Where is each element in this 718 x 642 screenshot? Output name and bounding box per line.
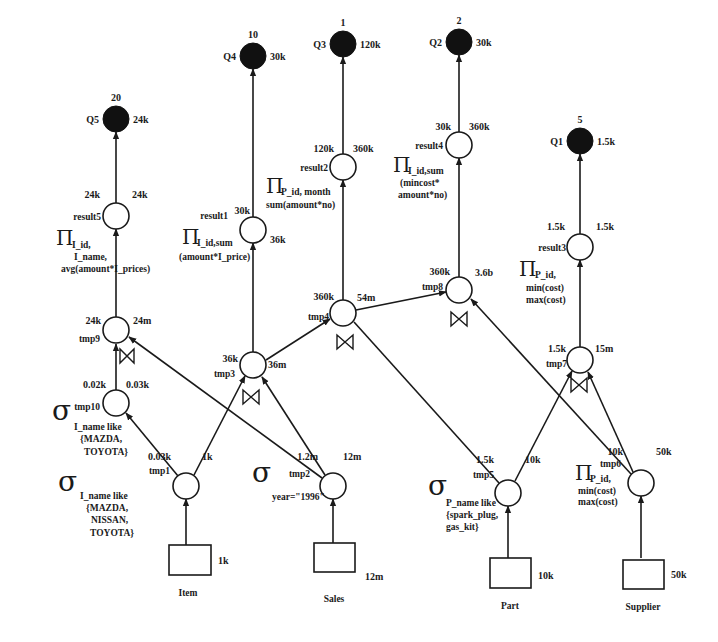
node-right-size: 3.6b — [475, 267, 494, 278]
relation-box — [169, 545, 211, 575]
relation-item: 1k Item — [169, 545, 229, 598]
query-size: 24k — [133, 114, 149, 125]
node-name: tmp7 — [546, 359, 567, 369]
op-line: amount*no) — [398, 190, 447, 201]
op-subscript: I_id, — [72, 240, 91, 250]
node-left-size: 1.5k — [548, 343, 567, 354]
op-subscript: P_id, month — [281, 187, 331, 197]
query-q5: 20 Q5 24k — [86, 92, 149, 132]
op-line: I_name like — [80, 491, 128, 501]
relation-name: Part — [501, 601, 520, 611]
node-left-size: 30k — [234, 205, 250, 216]
node-tmp1: 0.03k 1k tmp1 σ I_name like {MAZDA, NISS… — [58, 451, 213, 538]
node-tmp4: 360k 54m tmp4 — [308, 291, 376, 349]
node-tmp10: 0.02k 0.03k tmp10 σ I_name like {MAZDA, … — [52, 379, 150, 457]
join-icon — [337, 335, 353, 349]
op-line: min(cost) — [526, 283, 564, 294]
op-subscript: P_id, — [535, 270, 556, 280]
node-left-size: 1.2m — [297, 451, 319, 462]
query-label: Q2 — [429, 37, 442, 48]
node-right-size: 54m — [357, 292, 376, 303]
node-right-size: 0.03k — [126, 379, 150, 390]
relation-name: Supplier — [626, 602, 662, 612]
relation-size: 12m — [365, 571, 384, 582]
op-line: NISSAN, — [91, 515, 129, 525]
node-left-size: 10k — [607, 446, 623, 457]
node-name: tmp6 — [600, 459, 621, 469]
node-right-size: 24m — [133, 315, 152, 326]
query-label: Q3 — [313, 39, 326, 50]
node-tmp8: 360k 3.6b tmp8 — [422, 266, 494, 326]
relation-supplier: 50k Supplier — [623, 560, 687, 612]
node-right-size: 36m — [268, 359, 287, 370]
node-left-size: 0.03k — [148, 451, 172, 462]
projection-icon: Π — [519, 257, 536, 281]
query-label: Q5 — [86, 114, 99, 125]
node-result4: 30k 360k result4 Π I_id,sum (mincost* am… — [393, 121, 490, 201]
query-weight: 1 — [341, 17, 346, 28]
relation-size: 10k — [538, 570, 554, 581]
op-line: I_name like — [74, 422, 122, 432]
node-name: result2 — [300, 163, 328, 173]
node-right-size: 1k — [202, 451, 213, 462]
selection-icon: σ — [428, 469, 447, 502]
node-left-size: 24k — [84, 189, 100, 200]
relation-part: 10k Part — [490, 558, 554, 611]
query-label: Q1 — [550, 136, 563, 147]
op-line: (amount*I_price) — [179, 252, 250, 263]
join-icon — [120, 349, 134, 363]
relation-name: Sales — [324, 594, 345, 604]
node-left-size: 0.02k — [83, 379, 107, 390]
query-q1: 5 Q1 1.5k — [550, 114, 615, 154]
node-right-size: 24k — [132, 189, 148, 200]
node-left-size: 120k — [313, 143, 334, 154]
query-size: 30k — [476, 37, 492, 48]
query-q2: 2 Q2 30k — [429, 15, 492, 55]
node-result1: 30k 36k result1 Π I_id,sum (amount*I_pri… — [179, 205, 286, 263]
node-tmp3: 36k 36m tmp3 — [214, 352, 287, 404]
query-node-q2 — [446, 29, 472, 55]
query-label: Q4 — [223, 51, 236, 62]
node-tmp6: 10k 50k tmp6 Π P_id, min(cost) max(cost) — [575, 446, 672, 508]
node-name: tmp5 — [473, 470, 494, 480]
op-line: avg(amount*I_prices) — [61, 264, 150, 275]
join-icon — [571, 378, 587, 392]
op-line: year="1996" — [272, 492, 325, 502]
node-name: tmp10 — [74, 402, 100, 412]
node-right-size: 50k — [656, 446, 672, 457]
node-right-size: 10k — [525, 454, 541, 465]
query-size: 30k — [270, 51, 286, 62]
op-subscript: I_id,sum — [408, 166, 444, 176]
projection-icon: Π — [56, 226, 73, 250]
join-icon — [451, 312, 467, 326]
node-tmp7: 1.5k 15m tmp7 — [546, 343, 614, 392]
op-line: min(cost) — [578, 486, 616, 497]
op-line: TOYOTA} — [84, 447, 128, 457]
node-result5: 24k 24k result5 Π I_id, I_name, avg(amou… — [56, 189, 150, 275]
query-node-q5 — [103, 106, 129, 132]
node-right-size: 15m — [595, 343, 614, 354]
node-left-size: 36k — [222, 353, 238, 364]
selection-icon: σ — [252, 456, 271, 489]
query-weight: 2 — [457, 15, 462, 26]
query-size: 120k — [360, 39, 381, 50]
op-line: TOYOTA} — [90, 528, 134, 538]
node-tmp5: 1.5k 10k tmp5 σ P_name like {spark_plug,… — [428, 454, 541, 532]
relation-name: Item — [179, 588, 198, 598]
node-right-size: 12m — [343, 451, 362, 462]
query-plan-diagram: 20 Q5 24k 10 Q4 30k 1 Q3 120k 2 Q2 30k 5… — [0, 0, 718, 642]
node-right-size: 360k — [353, 143, 374, 154]
node-name: tmp8 — [422, 282, 443, 292]
relation-size: 50k — [671, 569, 687, 580]
query-node-q1 — [567, 128, 593, 154]
relation-box — [314, 543, 355, 572]
query-weight: 10 — [248, 29, 258, 40]
node-left-size: 1.5k — [547, 221, 566, 232]
op-line: gas_kit} — [446, 522, 479, 532]
relation-size: 1k — [218, 555, 229, 566]
node-name: tmp2 — [289, 469, 310, 479]
node-right-size: 360k — [469, 121, 490, 132]
op-line: I_name, — [74, 252, 108, 262]
edge-tmp6-tmp7 — [588, 372, 633, 472]
op-line: sum(amount*no) — [266, 200, 335, 211]
